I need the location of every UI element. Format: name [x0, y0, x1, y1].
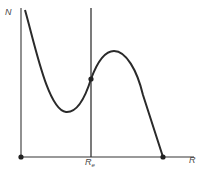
- x-axis-label: R: [189, 155, 196, 165]
- diagram-canvas: N R Re: [0, 0, 207, 178]
- equilibrium-label: Re: [85, 157, 96, 168]
- curve: [25, 10, 163, 157]
- equilibrium-label-sub: e: [92, 162, 96, 168]
- y-axis-label: N: [5, 7, 12, 17]
- origin-point: [18, 154, 23, 159]
- x-intercept-point: [160, 154, 165, 159]
- equilibrium-point: [88, 76, 93, 81]
